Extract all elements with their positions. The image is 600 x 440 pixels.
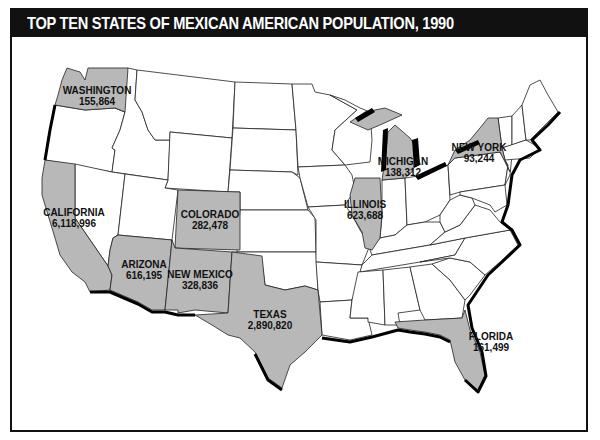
value-new-york: 93,244 [464,153,495,164]
label-new-york: NEW YORK [452,142,508,153]
label-new-mexico: NEW MEXICO [167,269,233,280]
value-new-mexico: 328,836 [182,280,219,291]
value-michigan: 138,312 [385,167,422,178]
label-washington: WASHINGTON [63,85,132,96]
state-north-dakota [233,82,296,130]
label-michigan: MICHIGAN [378,156,429,167]
value-colorado: 282,478 [192,220,229,231]
state-wyoming [165,132,232,192]
value-texas: 2,890,820 [248,320,293,331]
value-washington: 155,864 [79,96,116,107]
us-map: WASHINGTON 155,864 CALIFORNIA 6,118,996 … [0,0,600,440]
value-arizona: 616,195 [126,270,163,281]
label-illinois: ILLINOIS [344,199,387,210]
label-colorado: COLORADO [181,209,240,220]
value-california: 6,118,996 [52,218,96,229]
label-texas: TEXAS [253,309,287,320]
state-montana [135,70,235,140]
state-south-dakota [230,128,298,175]
label-arizona: ARIZONA [121,259,167,270]
state-kansas [237,210,316,252]
label-florida: FLORIDA [469,331,513,342]
value-florida: 161,499 [473,342,510,353]
label-california: CALIFORNIA [43,207,105,218]
value-illinois: 623,688 [347,210,384,221]
